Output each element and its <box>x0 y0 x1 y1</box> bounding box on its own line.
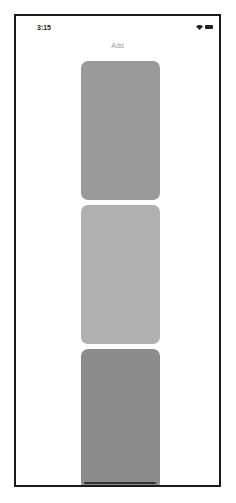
wifi-icon <box>196 25 203 30</box>
add-title[interactable]: Add <box>16 42 219 49</box>
home-indicator <box>84 482 156 484</box>
card-3[interactable] <box>81 349 160 487</box>
battery-icon <box>205 25 213 29</box>
card-2[interactable] <box>81 205 160 344</box>
card-1[interactable] <box>81 61 160 200</box>
status-time: 3:15 <box>37 24 51 31</box>
phone-frame: 3:15 Add <box>14 14 221 487</box>
status-bar: 3:15 <box>16 16 219 36</box>
